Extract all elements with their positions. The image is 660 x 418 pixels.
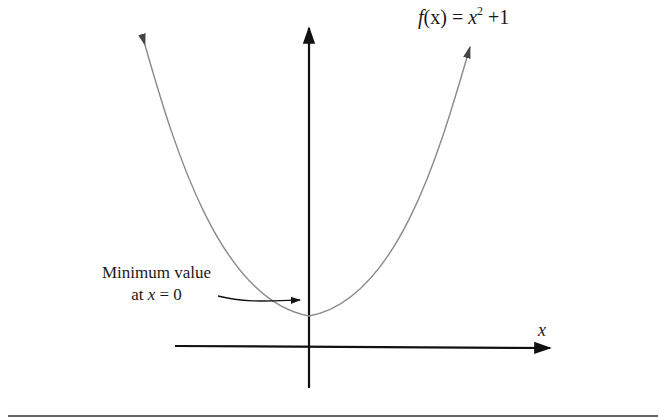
func-arg: (x)	[424, 6, 447, 28]
function-label: f(x) = x2 +1	[418, 4, 509, 29]
annotation-line2: at x = 0	[102, 284, 211, 306]
annotation-prefix: at	[131, 285, 148, 304]
minimum-annotation: Minimum value at x = 0	[102, 262, 211, 306]
func-var: x	[468, 6, 477, 28]
func-eq: =	[447, 6, 468, 28]
annotation-line1: Minimum value	[102, 262, 211, 284]
annotation-rest: = 0	[155, 285, 182, 304]
x-axis-label: x	[538, 320, 546, 341]
x-axis	[175, 346, 550, 348]
parabola-diagram	[0, 0, 660, 418]
func-rest: +1	[483, 6, 509, 28]
minimum-pointer-arrow	[218, 296, 300, 301]
